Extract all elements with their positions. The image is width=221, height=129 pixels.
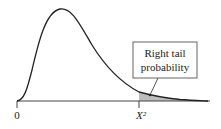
right-tail-shade bbox=[139, 92, 208, 101]
pointer-dot bbox=[149, 94, 152, 97]
annotation-line1: Right tail bbox=[144, 47, 185, 59]
annotation-pointer bbox=[150, 78, 158, 95]
annotation-line2: probability bbox=[141, 61, 190, 73]
tick-label-chi-square: X² bbox=[135, 109, 147, 121]
tick-label-zero: 0 bbox=[14, 109, 20, 121]
chart-svg: Right tail probability 0 X² bbox=[0, 0, 221, 129]
chi-square-figure: Right tail probability 0 X² bbox=[0, 0, 221, 129]
